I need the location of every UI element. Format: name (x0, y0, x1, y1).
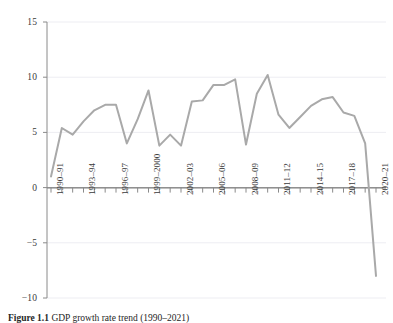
gdp-growth-series-line (51, 75, 376, 276)
x-axis-tick-label: 1990–91 (55, 162, 65, 194)
y-axis-tick-label: 10 (13, 72, 37, 82)
x-axis-tick-label: 2017–18 (347, 162, 357, 194)
x-axis-tick-label: 2002–03 (185, 162, 195, 194)
x-axis-tick-label: 2020–21 (380, 162, 390, 194)
x-axis-tick-label: 1993–94 (87, 162, 97, 194)
axes-group (47, 22, 386, 298)
y-axis-tick-label: −10 (13, 293, 37, 303)
gdp-growth-line-chart (0, 0, 393, 323)
y-axis-tick-label: −5 (13, 238, 37, 248)
figure-container: 151050−5−10 1990–911993–941996–971999–20… (0, 0, 393, 323)
gridlines-group (47, 22, 386, 298)
x-axis-tick-label: 1996–97 (120, 162, 130, 194)
y-axis-ticks (43, 22, 47, 298)
y-axis-tick-label: 0 (13, 183, 37, 193)
figure-caption-label: Figure 1.1 (8, 313, 49, 323)
x-axis-tick-label: 2008–09 (250, 162, 260, 194)
x-axis-tick-label: 2011–12 (282, 163, 292, 195)
y-axis-tick-label: 15 (13, 17, 37, 27)
y-axis-tick-label: 5 (13, 127, 37, 137)
x-axis-tick-label: 1999–2000 (152, 153, 162, 194)
figure-caption: Figure 1.1 GDP growth rate trend (1990–2… (8, 313, 393, 323)
x-axis-tick-label: 2014–15 (315, 162, 325, 194)
figure-caption-text: GDP growth rate trend (1990–2021) (51, 313, 189, 323)
x-axis-tick-label: 2005–06 (217, 162, 227, 194)
